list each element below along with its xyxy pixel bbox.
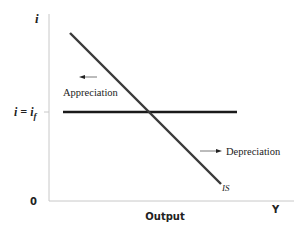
appreciation-arrowhead-icon <box>79 75 85 79</box>
y-tick-subscript: f <box>34 111 38 121</box>
y-tick-label: i = if <box>14 105 38 121</box>
y-axis-label: i <box>35 11 39 26</box>
is-curve-diagram: i i = if Appreciation Depreciation IS 0 … <box>0 0 299 231</box>
x-axis-title: Output <box>145 211 185 222</box>
is-curve-label: IS <box>221 183 230 193</box>
depreciation-arrowhead-icon <box>216 149 222 153</box>
is-curve <box>70 33 221 184</box>
origin-label: 0 <box>30 196 37 207</box>
depreciation-label: Depreciation <box>226 146 281 157</box>
x-axis-label: Y <box>271 204 280 215</box>
appreciation-label: Appreciation <box>63 87 119 98</box>
